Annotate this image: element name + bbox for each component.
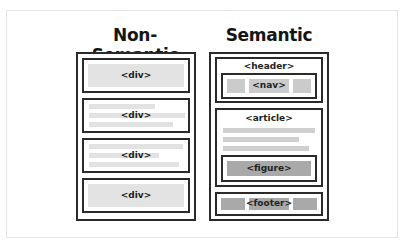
footer-label: <footer>	[217, 198, 321, 208]
text-line	[89, 122, 173, 127]
div-block-3: <div>	[82, 138, 190, 173]
div-label: <div>	[84, 110, 188, 120]
article-label: <article>	[217, 113, 321, 123]
semantic-title: Semantic	[204, 25, 334, 45]
div-label: <div>	[84, 70, 188, 80]
text-line	[223, 128, 315, 133]
text-line	[223, 146, 309, 151]
text-line	[89, 104, 155, 109]
nav-block: <nav>	[221, 73, 317, 99]
text-line	[89, 162, 179, 167]
header-label: <header>	[217, 61, 321, 71]
figure-label: <figure>	[223, 163, 315, 173]
diagram-card	[6, 10, 398, 238]
div-block-2: <div>	[82, 98, 190, 133]
div-label: <div>	[84, 190, 188, 200]
div-label: <div>	[84, 150, 188, 160]
figure-block: <figure>	[221, 155, 317, 182]
nav-label: <nav>	[223, 80, 315, 90]
footer-block: <footer>	[215, 192, 323, 216]
text-line	[223, 137, 299, 142]
div-block-1: <div>	[82, 58, 190, 93]
div-block-4: <div>	[82, 178, 190, 213]
text-line	[89, 144, 183, 149]
